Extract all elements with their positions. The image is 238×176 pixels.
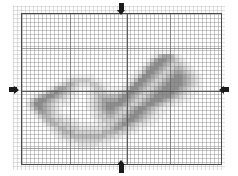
image-canvas[interactable] [21, 13, 222, 165]
bottom-drag-handle[interactable] [119, 165, 124, 173]
major-gridline-v [70, 14, 71, 164]
major-gridline-v [170, 14, 171, 164]
major-gridline-h [22, 48, 221, 49]
bottom-guide-marker-icon[interactable] [117, 160, 125, 165]
top-guide-marker-icon[interactable] [117, 10, 125, 15]
editor-view [0, 0, 238, 176]
right-guide-marker-icon[interactable] [219, 86, 224, 94]
major-gridline-h [22, 148, 221, 149]
left-guide-marker-icon[interactable] [14, 86, 19, 94]
pixel-raster [22, 14, 221, 164]
canvas-workspace[interactable] [13, 6, 225, 170]
